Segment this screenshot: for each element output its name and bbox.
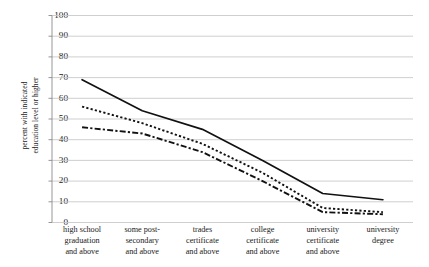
- x-axis-category-labels: high schoolgraduationand abovesome post-…: [52, 224, 413, 258]
- x-axis-category-label-line: certificate: [233, 235, 293, 246]
- x-axis-category-label-line: and above: [172, 246, 232, 257]
- x-axis-category-label-line: university: [353, 224, 413, 235]
- x-axis-category-label: high schoolgraduationand above: [52, 224, 112, 258]
- data-line-dashdot: [82, 127, 383, 214]
- x-axis-category-label-line: secondary: [112, 235, 172, 246]
- x-axis-category-label-line: and above: [52, 246, 112, 257]
- x-axis-category-label-line: and above: [112, 246, 172, 257]
- x-axis-category-label-line: degree: [353, 235, 413, 246]
- x-axis-category-label-line: and above: [293, 246, 353, 257]
- x-axis-category-label: tradescertificateand above: [172, 224, 232, 258]
- x-axis-category-label-line: university: [293, 224, 353, 235]
- x-axis-category-label: universitydegree: [353, 224, 413, 258]
- x-axis-category-label-line: college: [233, 224, 293, 235]
- x-axis-category-label: universitycertificateand above: [293, 224, 353, 258]
- data-line-dotted: [82, 107, 383, 213]
- x-axis-category-label: some post-secondaryand above: [112, 224, 172, 258]
- data-series-group: [82, 80, 383, 215]
- x-axis-category-label-line: certificate: [172, 235, 232, 246]
- gridlines: [52, 16, 413, 223]
- x-axis-category-label-line: some post-: [112, 224, 172, 235]
- line-chart: percent with indicated education level o…: [0, 0, 429, 267]
- x-axis-category-label-line: graduation: [52, 235, 112, 246]
- x-axis-category-label-line: and above: [233, 246, 293, 257]
- x-axis-category-label-line: trades: [172, 224, 232, 235]
- x-axis-category-label: collegecertificateand above: [233, 224, 293, 258]
- x-axis-category-label-line: high school: [52, 224, 112, 235]
- x-axis-category-label-line: certificate: [293, 235, 353, 246]
- axis-lines: [49, 16, 53, 223]
